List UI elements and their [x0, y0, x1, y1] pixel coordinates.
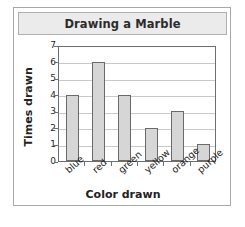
- chart-body: Times drawn 01234567 Color drawn bluered…: [14, 36, 232, 206]
- y-axis-tick-label: 3: [34, 107, 56, 116]
- bar-red: [92, 62, 105, 161]
- y-axis-tick-mark: [54, 162, 58, 163]
- bar-blue: [66, 95, 79, 161]
- gridline: [59, 63, 215, 64]
- y-axis-tick-label: 4: [34, 91, 56, 100]
- gridline: [59, 96, 215, 97]
- chart-title-bar: Drawing a Marble: [18, 12, 227, 35]
- y-axis-tick-label: 2: [34, 124, 56, 133]
- y-axis-tick-mark: [54, 46, 58, 47]
- y-axis-tick-label: 5: [34, 74, 56, 83]
- x-axis-tick-mark: [111, 162, 112, 166]
- y-axis-tick-mark: [54, 95, 58, 96]
- y-axis-tick-mark: [54, 128, 58, 129]
- y-axis-tick-labels: 01234567: [32, 46, 56, 162]
- gridline: [59, 113, 215, 114]
- chart-card: Drawing a Marble Times drawn 01234567 Co…: [13, 7, 231, 206]
- x-axis-tick-mark: [84, 162, 85, 166]
- y-axis-tick-label: 0: [34, 157, 56, 166]
- y-axis-tick-label: 6: [34, 58, 56, 67]
- bar-green: [118, 95, 131, 161]
- gridline: [59, 80, 215, 81]
- y-axis-tick-mark: [54, 112, 58, 113]
- x-axis-title: Color drawn: [14, 188, 232, 201]
- y-axis-tick-mark: [54, 79, 58, 80]
- chart-title: Drawing a Marble: [64, 17, 180, 31]
- y-axis-tick-mark: [54, 145, 58, 146]
- gridline: [59, 129, 215, 130]
- y-axis-tick-mark: [54, 62, 58, 63]
- y-axis-tick-label: 1: [34, 140, 56, 149]
- y-axis-tick-label: 7: [34, 41, 56, 50]
- x-axis-tick-mark: [163, 162, 164, 166]
